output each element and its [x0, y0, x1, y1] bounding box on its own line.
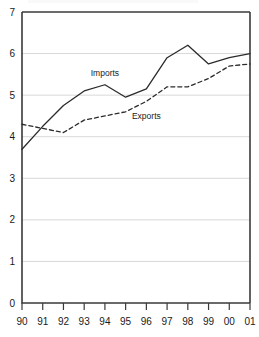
chart-canvas: 01234567 909192939495969798990001 Import…: [0, 0, 259, 337]
series-annotation-imports: Imports: [91, 68, 119, 78]
y-tick-label: 3: [9, 173, 15, 184]
y-tick-label: 0: [9, 298, 15, 309]
series-annotation-exports: Exports: [132, 111, 161, 121]
axis-lines: [22, 12, 250, 303]
x-tick-label: 94: [99, 316, 111, 327]
x-axis-ticks: [22, 303, 250, 310]
axis-path: [22, 12, 250, 303]
x-tick-label: 00: [224, 316, 236, 327]
y-axis-tick-labels: 01234567: [9, 7, 15, 309]
x-tick-label: 90: [16, 316, 28, 327]
x-tick-label: 92: [58, 316, 70, 327]
line-chart: 01234567 909192939495969798990001 Import…: [0, 0, 259, 337]
x-tick-label: 93: [79, 316, 91, 327]
y-tick-label: 1: [9, 256, 15, 267]
x-tick-label: 98: [182, 316, 194, 327]
x-tick-label: 97: [162, 316, 174, 327]
y-tick-label: 7: [9, 7, 15, 18]
y-tick-label: 2: [9, 214, 15, 225]
y-tick-label: 4: [9, 131, 15, 142]
data-series: [22, 45, 250, 149]
x-tick-label: 99: [203, 316, 215, 327]
x-tick-label: 95: [120, 316, 132, 327]
x-tick-label: 01: [244, 316, 256, 327]
x-axis-tick-labels: 909192939495969798990001: [16, 316, 256, 327]
scan-artifact: [28, 0, 198, 3]
y-tick-label: 5: [9, 90, 15, 101]
series-line-imports: [22, 45, 250, 149]
y-tick-label: 6: [9, 48, 15, 59]
series-line-exports: [22, 64, 250, 133]
gridlines: [22, 54, 250, 262]
x-tick-label: 96: [141, 316, 153, 327]
x-tick-label: 91: [37, 316, 49, 327]
